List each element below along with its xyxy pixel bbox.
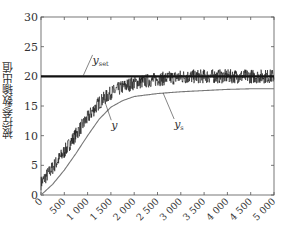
x-tick-label: 1 500 (87, 196, 114, 223)
x-tick-label: 0 (32, 196, 44, 208)
x-tick-label: 3 000 (157, 196, 184, 223)
annotation-label-y: y (110, 119, 118, 132)
series-y-line (41, 69, 274, 190)
y-tick-label: 30 (24, 11, 38, 24)
y-tick-label: 25 (24, 41, 38, 54)
line-chart: 051015202530 05001 0001 5002 0002 5003 0… (0, 0, 285, 229)
axes-box (41, 17, 274, 195)
annotation-label-y_s: ys (173, 118, 184, 132)
annotation-label-y_set: yset (92, 54, 109, 68)
x-tick-label: 4 000 (204, 196, 231, 223)
x-tick-label: 5 000 (250, 196, 277, 223)
x-tick-label: 2 000 (111, 196, 138, 223)
x-tick-label: 3 500 (181, 196, 208, 223)
x-tick-label: 4 500 (227, 196, 254, 223)
x-tick-label: 2 500 (134, 196, 161, 223)
x-axis-ticks: 05001 0001 5002 0002 5003 0003 5004 0004… (32, 17, 277, 223)
y-axis-label: 被控参数输出值 (3, 62, 19, 139)
plot-frame (41, 17, 274, 195)
y-tick-label: 5 (31, 159, 38, 172)
series-layer (41, 69, 274, 195)
y-tick-label: 20 (24, 70, 38, 83)
y-tick-label: 10 (24, 130, 38, 143)
y-tick-label: 15 (24, 100, 38, 113)
x-tick-label: 1 000 (64, 196, 91, 223)
series-y-s-line (41, 89, 274, 195)
